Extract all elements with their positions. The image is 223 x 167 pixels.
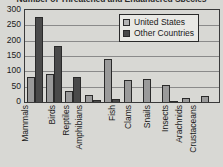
- legend-swatch-icon: [123, 30, 130, 37]
- y-tick-label: 250: [7, 20, 21, 28]
- bar-chart-figure: Number of Threatened and Endangered Spec…: [0, 0, 223, 167]
- bar: [85, 95, 93, 102]
- x-tick-label: Snails: [142, 82, 152, 105]
- x-tick-label: Arachnids: [174, 67, 184, 105]
- chart-legend: United StatesOther Countries: [119, 14, 199, 42]
- bar-group: [201, 10, 217, 102]
- bar: [35, 17, 43, 102]
- legend-label: United States: [134, 18, 185, 27]
- legend-item: United States: [123, 17, 194, 28]
- bar-group: [85, 10, 101, 102]
- x-tick-label: Insects: [160, 78, 170, 105]
- x-tick: Mammals: [24, 103, 43, 165]
- legend-item: Other Countries: [123, 28, 194, 39]
- x-tick-label: Amphibians: [74, 61, 84, 105]
- x-tick: Fish: [102, 103, 121, 165]
- x-tick-label: Crustaceans: [188, 57, 198, 105]
- legend-swatch-icon: [123, 19, 130, 26]
- x-tick-label: Clams: [123, 81, 133, 105]
- x-tick: Snails: [140, 103, 159, 165]
- x-tick: Clams: [121, 103, 140, 165]
- x-tick: Amphibians: [82, 103, 101, 165]
- x-tick-label: Birds: [47, 86, 57, 105]
- bar: [93, 100, 101, 102]
- chart-title: Number of Threatened and Endangered Spec…: [0, 0, 223, 2]
- x-axis: MammalsBirdsReptilesAmphibiansFishClamsS…: [24, 103, 218, 165]
- bar: [201, 96, 209, 102]
- legend-label: Other Countries: [134, 29, 194, 38]
- x-tick-label: Fish: [107, 89, 117, 105]
- x-tick-label: Reptiles: [61, 74, 71, 105]
- y-tick-label: 150: [7, 51, 21, 59]
- x-tick-label: Mammals: [19, 68, 29, 105]
- y-tick-label: 300: [7, 5, 21, 13]
- x-tick: Crustaceans: [199, 103, 218, 165]
- y-tick-label: 200: [7, 36, 21, 44]
